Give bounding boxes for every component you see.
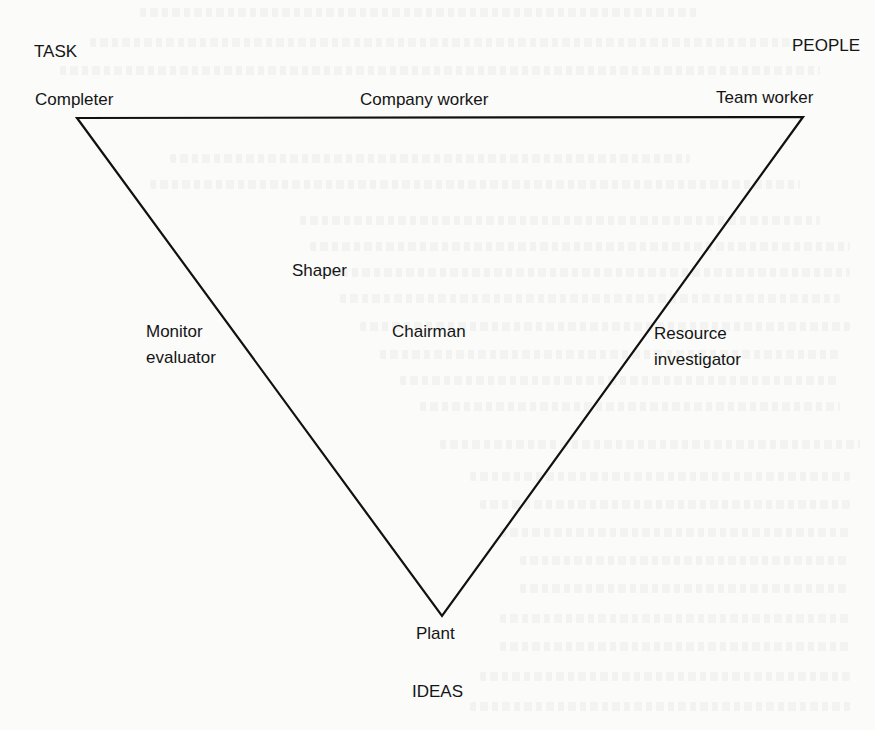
role-monitor-evaluator-line2: evaluator bbox=[146, 346, 216, 370]
role-chairman: Chairman bbox=[392, 320, 466, 344]
role-company-worker: Company worker bbox=[360, 88, 489, 112]
role-shaper: Shaper bbox=[292, 259, 347, 283]
role-team-worker: Team worker bbox=[716, 86, 813, 110]
role-plant: Plant bbox=[416, 622, 455, 646]
heading-people: PEOPLE bbox=[792, 34, 860, 58]
role-completer: Completer bbox=[35, 88, 113, 112]
role-monitor-evaluator-line1: Monitor bbox=[146, 320, 203, 344]
heading-task: TASK bbox=[34, 40, 77, 64]
role-resource-investigator-line2: investigator bbox=[654, 348, 741, 372]
role-resource-investigator-line1: Resource bbox=[654, 322, 727, 346]
heading-ideas: IDEAS bbox=[412, 680, 463, 704]
